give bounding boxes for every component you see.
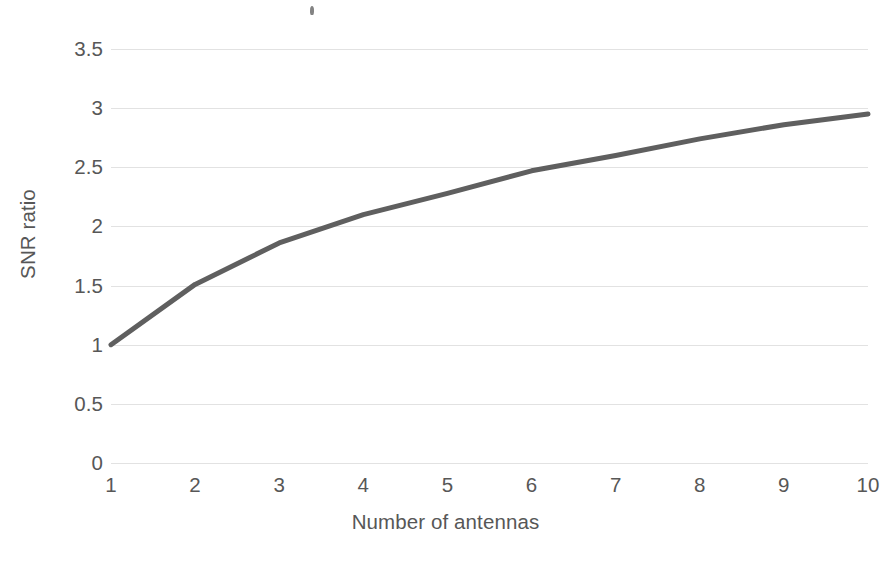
y-axis-tick-label: 3.5: [11, 39, 103, 60]
x-axis-tick-label: 2: [165, 475, 225, 496]
y-axis-tick-label: 1: [11, 335, 103, 356]
x-axis-tick-label: 7: [586, 475, 646, 496]
data-series-svg: [111, 49, 868, 463]
x-axis-title: Number of antennas: [0, 510, 891, 534]
x-axis-tick-label: 10: [838, 475, 891, 496]
plot-area: [111, 49, 868, 463]
x-axis-tick-label: 9: [754, 475, 814, 496]
series-line-snr-ratio: [111, 114, 868, 345]
y-axis-tick-label: 0.5: [11, 394, 103, 415]
x-axis-tick-label: 4: [333, 475, 393, 496]
x-axis-tick-label: 5: [417, 475, 477, 496]
y-axis-tick-label: 3: [11, 98, 103, 119]
snr-ratio-line-chart: 00.511.522.533.5 SNR ratio 12345678910 N…: [0, 0, 891, 574]
y-axis-title: SNR ratio: [16, 154, 40, 314]
x-axis-tick-label: 1: [81, 475, 141, 496]
scan-artifact-speck: [310, 6, 314, 15]
x-axis-tick-label: 3: [249, 475, 309, 496]
x-axis-tick-label: 8: [670, 475, 730, 496]
y-axis-tick-label: 0: [11, 453, 103, 474]
x-axis-tick-label: 6: [502, 475, 562, 496]
x-axis-tick-labels: 12345678910: [111, 475, 868, 503]
gridline: [111, 463, 868, 464]
